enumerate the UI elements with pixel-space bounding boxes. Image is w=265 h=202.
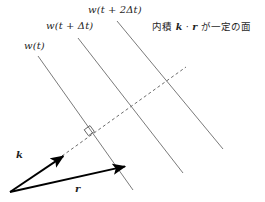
wavefront-line-2 <box>78 38 183 173</box>
annotation-suffix: が一定の面 <box>201 21 252 32</box>
perpendicular-marker <box>84 126 94 136</box>
wavefront-label-1: w(t) <box>24 41 45 51</box>
wavefront-line-3 <box>117 21 223 149</box>
vector-r-label: r <box>75 184 80 194</box>
vector-k-label: k <box>16 150 23 160</box>
plane-annotation-label: 内積 k · r が一定の面 <box>152 22 252 32</box>
wavefront-line-1 <box>38 56 133 190</box>
vector-r-shaft <box>10 166 125 192</box>
wavefront-label-3: w(t + 2Δt) <box>88 5 142 15</box>
figure-root: w(t) w(t + Δt) w(t + 2Δt) 内積 k · r が一定の面… <box>0 0 265 202</box>
annotation-prefix: 内積 <box>152 21 172 32</box>
normal-dashed-line <box>62 67 186 156</box>
wavefront-label-2: w(t + Δt) <box>46 21 93 31</box>
